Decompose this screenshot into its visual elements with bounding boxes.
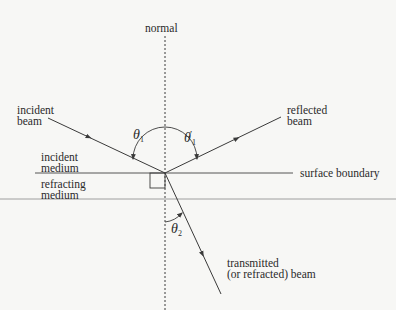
transmitted-beam-label: transmitted (or refracted) beam (227, 258, 316, 280)
theta2-subscript: 2 (178, 229, 182, 238)
refracting-medium-label: refracting medium (41, 179, 86, 201)
theta2-symbol: θ (171, 221, 178, 236)
incident-medium-label: incident medium (41, 152, 79, 174)
theta1-label: θ1 (133, 128, 144, 147)
theta1-symbol: θ (133, 127, 140, 142)
surface-boundary-label: surface boundary (300, 168, 380, 179)
theta1-subscript: 1 (140, 135, 144, 144)
right-angle-marker (150, 173, 165, 188)
theta2-label: θ2 (171, 222, 182, 241)
reflected-beam-label: reflected beam (287, 105, 327, 127)
reflection-refraction-diagram: normal incident beam reflected beam inci… (0, 0, 396, 310)
normal-label: normal (145, 23, 178, 34)
incident-beam-label: incident beam (17, 105, 54, 127)
theta1-prime-subscript: 1 (192, 138, 196, 147)
reflected-beam-line (165, 117, 281, 173)
theta1-prime-label: θ′1 (184, 128, 196, 150)
